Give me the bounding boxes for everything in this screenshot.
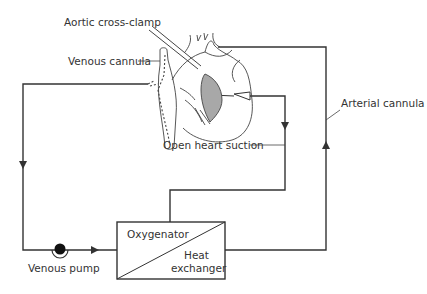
bypass-circuit-diagram: Aortic cross-clamp Venous cannula Arteri…: [0, 0, 427, 294]
arrow-down-left: [19, 161, 27, 169]
arterial-cannula-label: Arterial cannula: [341, 98, 425, 109]
heart-illustration: [148, 26, 252, 149]
exchanger-label: exchanger: [171, 263, 226, 274]
aortic-cross-clamp-label: Aortic cross-clamp: [64, 17, 161, 28]
venous-cannula-label: Venous cannula: [68, 56, 151, 67]
venous-pump-label: Venous pump: [28, 263, 100, 274]
suction-line: [170, 96, 285, 222]
venous-pump-icon: [52, 244, 68, 259]
shaded-chamber: [201, 74, 222, 122]
venous-line: [23, 84, 148, 250]
arrow-up-arterial: [322, 141, 330, 149]
suction-cannula-tip: [234, 92, 250, 100]
oxygenator-label: Oxygenator: [127, 229, 189, 240]
open-heart-suction-label: Open heart suction: [163, 140, 264, 151]
heat-label: Heat: [184, 250, 209, 261]
arrow-down-suction: [281, 122, 289, 130]
arrow-right-pump: [91, 246, 99, 254]
